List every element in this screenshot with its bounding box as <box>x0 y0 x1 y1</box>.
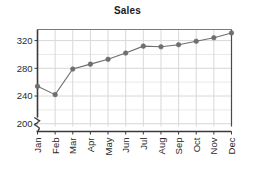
x-axis-tick-label: Jul <box>138 138 149 150</box>
data-point-marker <box>35 84 40 89</box>
x-axis-tick-label: Feb <box>50 138 61 154</box>
y-axis-tick-label: 280 <box>17 63 33 74</box>
sales-series-line <box>38 33 232 95</box>
x-axis-tick-label: Jan <box>32 138 43 153</box>
x-axis-tick-label: May <box>103 137 114 155</box>
data-point-marker <box>123 51 128 56</box>
data-point-marker <box>229 31 234 36</box>
series-polyline <box>38 33 232 95</box>
data-point-marker <box>212 36 217 41</box>
y-axis-tick-label: 200 <box>17 118 33 129</box>
y-axis-tick-labels: 200240280320 <box>17 35 33 129</box>
x-axis-tick-label: Sep <box>173 138 184 155</box>
x-axis-tick-label: Aug <box>156 138 167 155</box>
data-point-marker <box>159 45 164 50</box>
data-point-marker <box>88 62 93 67</box>
x-axis-tick-label: Nov <box>208 137 219 154</box>
data-point-marker <box>176 42 181 47</box>
plot-frame <box>37 30 232 132</box>
x-axis-tick-label: Mar <box>67 138 78 154</box>
data-point-marker <box>106 57 111 62</box>
x-axis-tick-label: Apr <box>85 138 96 153</box>
x-axis-tick-label: Oct <box>191 137 202 152</box>
x-axis-tick-label: Dec <box>226 137 237 154</box>
x-axis-tick-label: Jun <box>120 138 131 153</box>
x-axis-tick-labels: JanFebMarAprMayJunJulAugSepOctNovDec <box>32 137 237 155</box>
plot-svg: 200240280320 JanFebMarAprMayJunJulAugSep… <box>0 0 255 169</box>
data-point-marker <box>141 44 146 49</box>
data-point-marker <box>194 39 199 44</box>
axis-break-zigzag <box>34 118 39 129</box>
data-point-marker <box>53 92 58 97</box>
sales-line-chart: Sales 200240280320 JanFebMarAprMayJunJul… <box>0 0 255 169</box>
data-point-marker <box>70 67 75 72</box>
y-axis-tick-label: 320 <box>17 35 33 46</box>
y-axis-tick-label: 240 <box>17 90 33 101</box>
